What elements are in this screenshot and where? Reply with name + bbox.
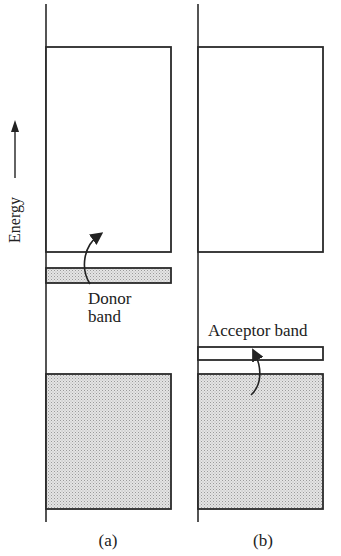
panel-b-valence-band	[198, 374, 323, 509]
panel-a: Donor band (a)	[46, 4, 171, 550]
band-diagram: Energy Donor band (a) Acceptor band (b)	[0, 0, 341, 556]
panel-b: Acceptor band (b)	[198, 4, 323, 550]
panel-a-caption: (a)	[99, 531, 118, 550]
energy-label-text: Energy	[6, 197, 24, 243]
panel-b-acceptor-band	[198, 347, 323, 360]
panel-b-conduction-band	[198, 47, 323, 252]
donor-label-line2: band	[88, 307, 122, 326]
panel-a-valence-band	[46, 374, 171, 509]
panel-a-conduction-band	[46, 47, 171, 252]
panel-b-caption: (b)	[253, 531, 273, 550]
donor-label-line1: Donor	[88, 289, 132, 308]
energy-axis-label: Energy	[6, 197, 24, 243]
energy-arrow-icon	[11, 120, 19, 178]
panel-a-donor-band	[46, 268, 171, 283]
acceptor-label: Acceptor band	[208, 321, 308, 340]
